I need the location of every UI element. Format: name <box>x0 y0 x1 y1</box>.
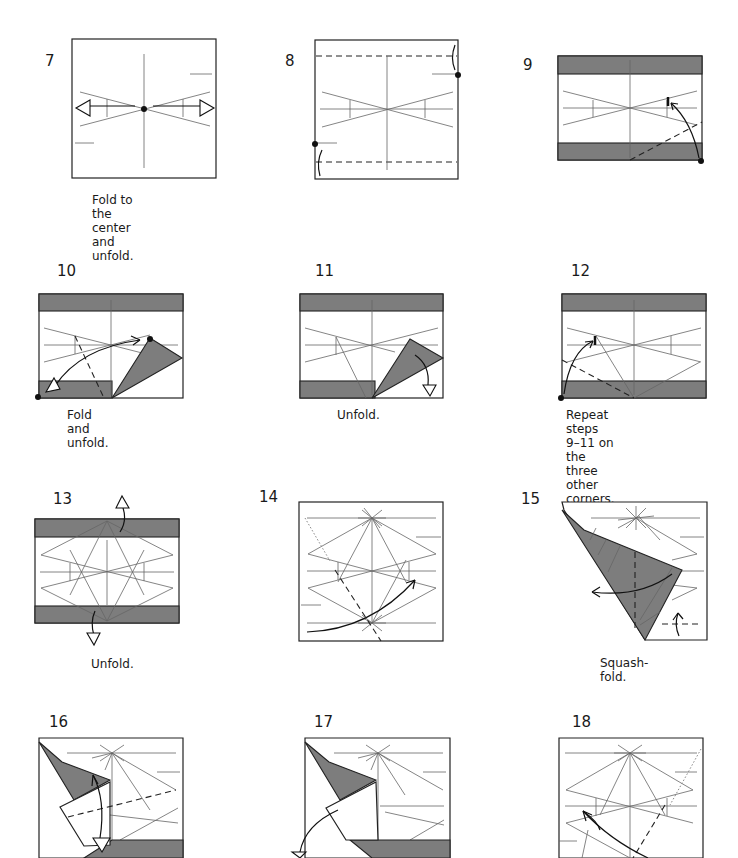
step-18-diagram <box>0 0 738 858</box>
